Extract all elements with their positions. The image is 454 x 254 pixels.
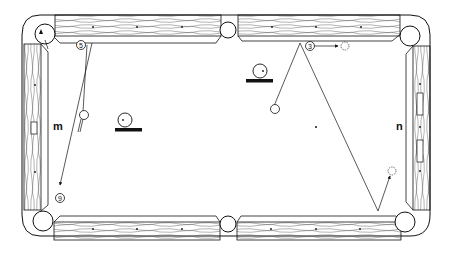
ball-3: 3 (306, 42, 315, 51)
diamond-marker (419, 83, 421, 85)
rail-sight (417, 140, 423, 162)
ball-9-number: 9 (58, 195, 62, 202)
shot-line-cue-left (83, 45, 87, 112)
diamond-marker (315, 228, 317, 230)
diamond-marker (92, 228, 94, 230)
diamond-marker (181, 26, 183, 28)
diamond-marker (92, 26, 94, 28)
diamond-marker (270, 228, 272, 230)
rail-sight (31, 122, 37, 134)
ghost-ball-rebound (388, 167, 396, 175)
rail-top-right (238, 15, 402, 41)
diamond-marker (360, 26, 362, 28)
rail-top-left (53, 15, 221, 43)
ball-9: 9 (56, 194, 65, 203)
billiards-diagram: 5 3 9 m n (0, 0, 454, 254)
diamond-marker (419, 170, 421, 172)
cue-ball-right (271, 105, 280, 114)
shot-paths (45, 40, 390, 211)
label-m: m (53, 120, 63, 132)
rail-right (406, 46, 430, 210)
diamond-marker (271, 26, 273, 28)
pocket-bottom-middle (220, 216, 236, 232)
pocket-bottom-left (33, 211, 53, 231)
diamond-marker (34, 171, 36, 173)
pocket-bottom-right (395, 212, 415, 232)
table-svg: 5 3 9 m n (0, 0, 454, 254)
rail-bottom-right (237, 216, 402, 240)
rail-bottom-left (54, 216, 220, 240)
pocket-top-right (400, 26, 420, 46)
diamond-marker (315, 26, 317, 28)
diamond-marker (419, 126, 421, 128)
ball-5-number: 5 (79, 42, 83, 49)
pocket-top-middle (220, 22, 236, 38)
ball-5: 5 (77, 41, 86, 50)
cue-ball-left (80, 111, 89, 120)
ghost-ball-3-target (341, 42, 349, 50)
diamond-marker (181, 228, 183, 230)
cue-ball-elevation-icon-right (246, 64, 273, 83)
diamond-marker (136, 228, 138, 230)
cue-ball-elevation-icon-left (115, 113, 142, 132)
table-spot (315, 126, 317, 128)
shot-line-to-cue-right (274, 43, 300, 106)
diamond-marker (34, 84, 36, 86)
label-n: n (396, 120, 403, 132)
diamond-marker (359, 228, 361, 230)
rail-sight (417, 93, 423, 115)
shot-line-long (300, 43, 378, 211)
diamond-marker (136, 26, 138, 28)
ball-3-number: 3 (308, 43, 312, 50)
shot-line-rebound (378, 176, 390, 211)
rail-left (24, 44, 48, 211)
